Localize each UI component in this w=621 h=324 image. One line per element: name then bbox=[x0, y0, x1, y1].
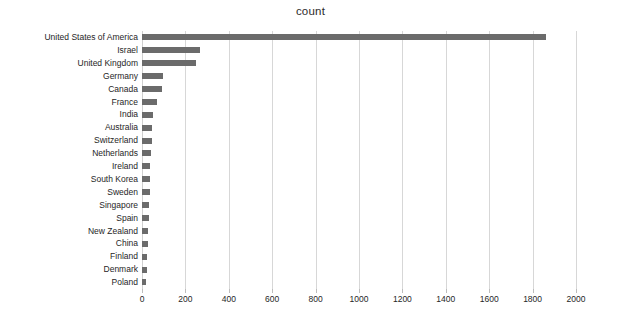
y-axis-label: Denmark bbox=[0, 263, 138, 276]
bar[interactable] bbox=[142, 112, 153, 118]
x-axis-tick-label: 800 bbox=[309, 294, 323, 304]
bar-series bbox=[142, 31, 576, 289]
bar[interactable] bbox=[142, 215, 149, 221]
x-axis-tick-label: 200 bbox=[178, 294, 192, 304]
x-axis-tick bbox=[316, 289, 317, 293]
bar-row[interactable] bbox=[142, 225, 576, 238]
plot-area bbox=[142, 31, 576, 289]
bar[interactable] bbox=[142, 279, 146, 285]
y-axis-label: Germany bbox=[0, 70, 138, 83]
bar-row[interactable] bbox=[142, 44, 576, 57]
bar-row[interactable] bbox=[142, 134, 576, 147]
bar-row[interactable] bbox=[142, 160, 576, 173]
bar[interactable] bbox=[142, 86, 162, 92]
bar-row[interactable] bbox=[142, 276, 576, 289]
y-axis-label: Singapore bbox=[0, 199, 138, 212]
bar[interactable] bbox=[142, 176, 150, 182]
y-axis-label: Poland bbox=[0, 276, 138, 289]
gridline bbox=[576, 31, 577, 289]
x-axis-tick bbox=[446, 289, 447, 293]
bar-row[interactable] bbox=[142, 70, 576, 83]
x-axis-tick bbox=[533, 289, 534, 293]
y-axis-label: Spain bbox=[0, 212, 138, 225]
y-axis-category-labels: United States of AmericaIsraelUnited Kin… bbox=[0, 31, 138, 289]
bar[interactable] bbox=[142, 47, 200, 53]
bar-row[interactable] bbox=[142, 57, 576, 70]
bar-row[interactable] bbox=[142, 250, 576, 263]
x-axis-tick-label: 1400 bbox=[436, 294, 455, 304]
y-axis-label: Switzerland bbox=[0, 134, 138, 147]
x-axis-tick bbox=[402, 289, 403, 293]
x-axis-tick-label: 0 bbox=[140, 294, 145, 304]
y-axis-label: New Zealand bbox=[0, 225, 138, 238]
x-axis-tick bbox=[142, 289, 143, 293]
x-axis-tick bbox=[229, 289, 230, 293]
y-axis-label: Finland bbox=[0, 250, 138, 263]
y-axis-label: China bbox=[0, 237, 138, 250]
x-axis-tick bbox=[359, 289, 360, 293]
bar[interactable] bbox=[142, 163, 150, 169]
x-axis-tick-label: 400 bbox=[222, 294, 236, 304]
bar-row[interactable] bbox=[142, 31, 576, 44]
y-axis-label: South Korea bbox=[0, 173, 138, 186]
bar[interactable] bbox=[142, 99, 157, 105]
x-axis-tick-label: 1600 bbox=[480, 294, 499, 304]
bar-row[interactable] bbox=[142, 173, 576, 186]
y-axis-label: India bbox=[0, 108, 138, 121]
y-axis-label: Israel bbox=[0, 44, 138, 57]
x-axis-tick bbox=[489, 289, 490, 293]
bar[interactable] bbox=[142, 254, 147, 260]
bar-row[interactable] bbox=[142, 108, 576, 121]
y-axis-label: Sweden bbox=[0, 186, 138, 199]
bar[interactable] bbox=[142, 73, 163, 79]
x-axis-tick bbox=[272, 289, 273, 293]
bar-row[interactable] bbox=[142, 121, 576, 134]
y-axis-label: Australia bbox=[0, 121, 138, 134]
bar-row[interactable] bbox=[142, 237, 576, 250]
bar[interactable] bbox=[142, 60, 196, 66]
y-axis-label: United Kingdom bbox=[0, 57, 138, 70]
bar[interactable] bbox=[142, 34, 546, 40]
bar-row[interactable] bbox=[142, 263, 576, 276]
y-axis-label: Canada bbox=[0, 83, 138, 96]
bar[interactable] bbox=[142, 150, 151, 156]
x-axis: 0200400600800100012001400160018002000 bbox=[142, 289, 576, 311]
y-axis-label: Ireland bbox=[0, 160, 138, 173]
x-axis-tick bbox=[185, 289, 186, 293]
bar-row[interactable] bbox=[142, 186, 576, 199]
bar-row[interactable] bbox=[142, 212, 576, 225]
x-axis-tick-label: 1000 bbox=[350, 294, 369, 304]
bar[interactable] bbox=[142, 228, 148, 234]
bar-row[interactable] bbox=[142, 147, 576, 160]
y-axis-label: United States of America bbox=[0, 31, 138, 44]
bar-row[interactable] bbox=[142, 96, 576, 109]
y-axis-label: France bbox=[0, 96, 138, 109]
bar[interactable] bbox=[142, 267, 147, 273]
bar-row[interactable] bbox=[142, 83, 576, 96]
bar[interactable] bbox=[142, 241, 148, 247]
bar[interactable] bbox=[142, 189, 150, 195]
bar[interactable] bbox=[142, 125, 152, 131]
y-axis-label: Netherlands bbox=[0, 147, 138, 160]
chart-title: count bbox=[0, 5, 621, 17]
bar-row[interactable] bbox=[142, 199, 576, 212]
x-axis-tick-label: 1200 bbox=[393, 294, 412, 304]
x-axis-tick-label: 600 bbox=[265, 294, 279, 304]
x-axis-tick-label: 2000 bbox=[567, 294, 586, 304]
x-axis-tick bbox=[576, 289, 577, 293]
bar[interactable] bbox=[142, 202, 149, 208]
bar-chart: count United States of AmericaIsraelUnit… bbox=[0, 0, 621, 324]
x-axis-tick-label: 1800 bbox=[523, 294, 542, 304]
bar[interactable] bbox=[142, 138, 152, 144]
